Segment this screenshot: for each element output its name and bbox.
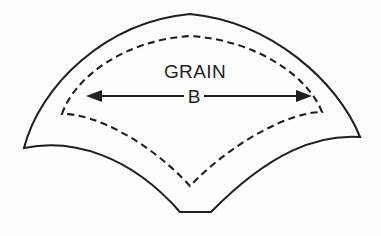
dimension-label-b: B xyxy=(188,86,201,107)
dashed-stitch-line-path xyxy=(62,36,322,186)
grain-label: GRAIN xyxy=(164,61,226,82)
grain-pattern-diagram: GRAIN B xyxy=(0,0,381,236)
arrow-head-left-icon xyxy=(86,90,102,102)
solid-cut-outline-path xyxy=(24,14,360,212)
diagram-canvas: GRAIN B xyxy=(0,0,381,236)
